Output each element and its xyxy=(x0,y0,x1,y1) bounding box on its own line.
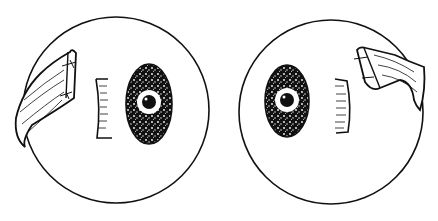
right-globe xyxy=(239,20,425,204)
iris-pupil-icon xyxy=(126,64,172,144)
iris-pupil-icon xyxy=(265,65,309,137)
figure xyxy=(0,0,438,221)
left-globe xyxy=(16,17,209,203)
